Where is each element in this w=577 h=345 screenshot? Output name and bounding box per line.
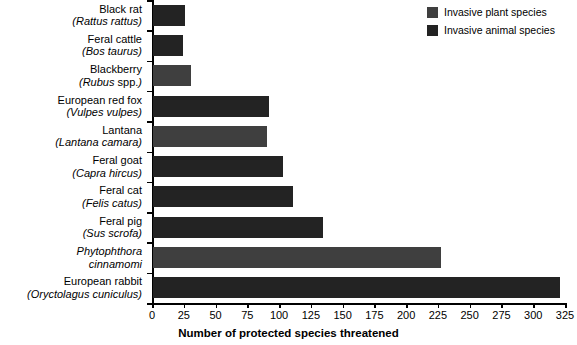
category-scientific-name: (Capra hircus) xyxy=(0,167,142,180)
bar-plant-4 xyxy=(153,126,267,147)
x-axis-tick-label: 325 xyxy=(550,309,577,321)
y-axis-tick xyxy=(147,273,152,275)
category-common-name: Feral cat xyxy=(0,184,142,197)
y-axis-tick xyxy=(147,121,152,123)
x-axis-tick-label: 225 xyxy=(423,309,453,321)
bar-animal-1 xyxy=(153,35,183,56)
bar-animal-9 xyxy=(153,277,560,298)
x-axis-tick-label: 250 xyxy=(455,309,485,321)
category-common-name: Black rat xyxy=(0,3,142,16)
category-label: Lantana(Lantana camara) xyxy=(0,124,142,149)
x-axis-tick xyxy=(152,303,154,308)
category-scientific-name: cinnamomi xyxy=(0,258,142,271)
plot-area: 0255075100125150175200225250275300325 xyxy=(152,0,565,303)
x-axis-tick xyxy=(247,303,249,308)
category-label: Feral goat(Capra hircus) xyxy=(0,154,142,179)
category-label: Black rat(Rattus rattus) xyxy=(0,3,142,28)
bar-animal-3 xyxy=(153,96,269,117)
category-scientific-name: (Rubus spp.) xyxy=(0,76,142,89)
x-axis-tick xyxy=(470,303,472,308)
y-axis-tick xyxy=(147,30,152,32)
x-axis-tick xyxy=(279,303,281,308)
y-axis-tick xyxy=(147,91,152,93)
category-scientific-name: (Oryctolagus cuniculus) xyxy=(0,288,142,301)
x-axis-tick xyxy=(374,303,376,308)
category-common-name: Feral cattle xyxy=(0,33,142,46)
category-scientific-name: (Felis catus) xyxy=(0,197,142,210)
x-axis-tick xyxy=(501,303,503,308)
category-common-name: European red fox xyxy=(0,94,142,107)
x-axis-tick xyxy=(311,303,313,308)
bar-plant-8 xyxy=(153,247,441,268)
category-scientific-name: (Rattus rattus) xyxy=(0,15,142,28)
x-axis-tick-label: 175 xyxy=(359,309,389,321)
bar-animal-0 xyxy=(153,5,185,26)
y-axis-tick xyxy=(147,0,152,2)
y-axis-tick xyxy=(147,182,152,184)
category-labels: Black rat(Rattus rattus)Feral cattle(Bos… xyxy=(0,0,148,303)
category-common-name: Lantana xyxy=(0,124,142,137)
category-label: Blackberry(Rubus spp.) xyxy=(0,63,142,88)
category-scientific-name: (Sus scrofa) xyxy=(0,227,142,240)
bar-chart: Invasive plant species Invasive animal s… xyxy=(0,0,577,345)
category-label: Feral cat(Felis catus) xyxy=(0,184,142,209)
category-label: Feral cattle(Bos taurus) xyxy=(0,33,142,58)
bar-animal-6 xyxy=(153,186,293,207)
y-axis-tick xyxy=(147,152,152,154)
x-axis-tick-label: 25 xyxy=(169,309,199,321)
x-axis-tick xyxy=(406,303,408,308)
x-axis-tick-label: 50 xyxy=(201,309,231,321)
x-axis-tick-label: 125 xyxy=(296,309,326,321)
bar-animal-7 xyxy=(153,217,323,238)
bar-animal-5 xyxy=(153,156,283,177)
x-axis-tick-label: 100 xyxy=(264,309,294,321)
y-axis-tick xyxy=(147,61,152,63)
category-label: Feral pig(Sus scrofa) xyxy=(0,215,142,240)
category-label: Phytophthoracinnamomi xyxy=(0,245,142,270)
x-axis-tick-label: 75 xyxy=(232,309,262,321)
x-axis-tick xyxy=(565,303,567,308)
y-axis-tick xyxy=(147,212,152,214)
x-axis-line xyxy=(152,303,565,305)
bar-plant-2 xyxy=(153,65,191,86)
x-axis-tick xyxy=(533,303,535,308)
x-axis-title: Number of protected species threatened xyxy=(0,327,577,339)
category-common-name: Blackberry xyxy=(0,63,142,76)
category-scientific-name: (Bos taurus) xyxy=(0,45,142,58)
x-axis-tick xyxy=(184,303,186,308)
category-label: European red fox(Vulpes vulpes) xyxy=(0,94,142,119)
category-scientific-name: (Vulpes vulpes) xyxy=(0,106,142,119)
category-common-name: European rabbit xyxy=(0,275,142,288)
x-axis-tick xyxy=(216,303,218,308)
y-axis-tick xyxy=(147,242,152,244)
category-scientific-name: (Lantana camara) xyxy=(0,136,142,149)
x-axis-tick-label: 275 xyxy=(486,309,516,321)
x-axis-tick-label: 150 xyxy=(328,309,358,321)
category-common-name: Feral goat xyxy=(0,154,142,167)
category-common-name: Feral pig xyxy=(0,215,142,228)
x-axis-tick-label: 200 xyxy=(391,309,421,321)
x-axis-tick-label: 300 xyxy=(518,309,548,321)
category-label: European rabbit(Oryctolagus cuniculus) xyxy=(0,275,142,300)
x-axis-tick xyxy=(343,303,345,308)
x-axis-tick xyxy=(438,303,440,308)
x-axis-tick-label: 0 xyxy=(137,309,167,321)
category-common-name: Phytophthora xyxy=(0,245,142,258)
